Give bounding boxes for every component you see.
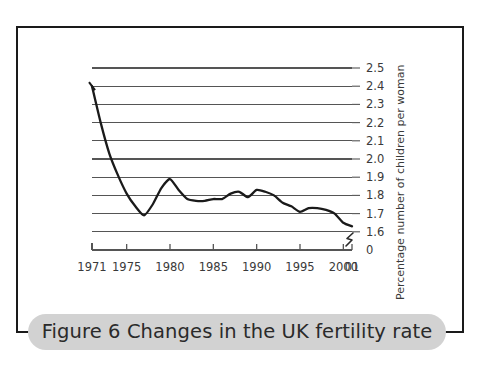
caption-label: Figure 6 Changes in the UK fertility rat… <box>28 314 446 350</box>
figure-caption: Figure 6 Changes in the UK fertility rat… <box>28 314 458 354</box>
figure-frame <box>16 26 464 333</box>
